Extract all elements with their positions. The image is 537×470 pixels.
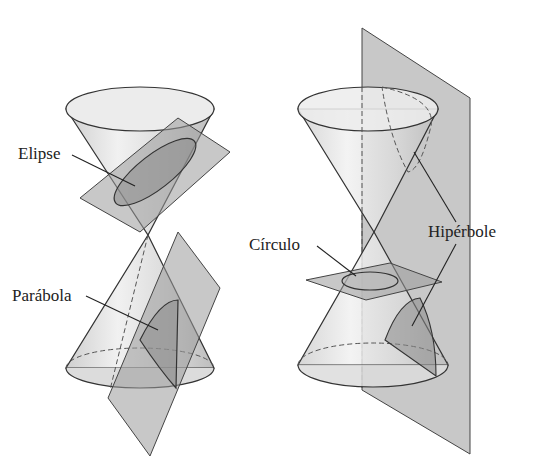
right-double-cone bbox=[298, 28, 470, 454]
circle-section bbox=[342, 272, 398, 290]
left-double-cone bbox=[66, 87, 230, 456]
leader-circle bbox=[317, 246, 356, 276]
left-upper-rim bbox=[66, 87, 214, 131]
label-ellipse: Elipse bbox=[18, 144, 61, 163]
label-parabola: Parábola bbox=[12, 286, 72, 305]
label-circle: Círculo bbox=[249, 235, 300, 254]
right-upper-rim bbox=[298, 87, 438, 131]
conic-sections-figure: Elipse Parábola Círculo Hipérbole bbox=[0, 0, 537, 470]
label-hyperbola: Hipérbole bbox=[428, 222, 496, 241]
